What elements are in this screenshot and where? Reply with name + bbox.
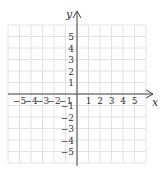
y-axis-label: y xyxy=(65,8,73,21)
x-tick-label: 3 xyxy=(109,96,115,106)
y-tick-label: −4 xyxy=(61,136,75,146)
y-tick-label: 1 xyxy=(68,78,74,88)
y-axis xyxy=(73,11,81,166)
x-tick-label: 1 xyxy=(86,96,92,106)
y-tick-label: −2 xyxy=(61,113,74,123)
y-tick-label: 3 xyxy=(68,55,74,65)
y-tick-label: 4 xyxy=(68,44,74,54)
x-tick-label: 5 xyxy=(132,96,138,106)
y-tick-label: 2 xyxy=(68,67,74,77)
x-tick-labels: −5−4−3−2−112345 xyxy=(13,96,138,106)
coordinate-plane: x y −5−4−3−2−112345 54321−1−2−3−4−5 xyxy=(0,0,165,175)
y-tick-label: −3 xyxy=(61,124,75,134)
x-tick-label: 2 xyxy=(97,96,103,106)
x-tick-label: 4 xyxy=(120,96,126,106)
y-tick-label: −5 xyxy=(61,147,75,157)
y-tick-label: −1 xyxy=(61,101,74,111)
y-tick-label: 5 xyxy=(68,32,74,42)
x-axis-label: x xyxy=(152,96,159,109)
